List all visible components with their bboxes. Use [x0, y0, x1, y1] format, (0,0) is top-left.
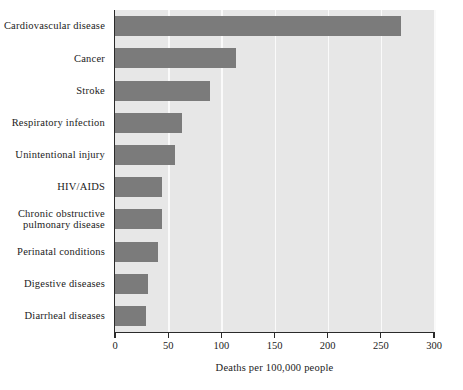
x-tick-label: 0: [112, 340, 117, 351]
category-label: Perinatal conditions: [0, 246, 105, 258]
x-axis-title: Deaths per 100,000 people: [115, 362, 434, 373]
x-tick-mark: [168, 333, 169, 338]
bar: [115, 242, 158, 262]
category-label: HIV/AIDS: [0, 181, 105, 193]
gridline: [328, 10, 330, 332]
category-label: Cardiovascular disease: [0, 20, 105, 32]
gridline: [275, 10, 277, 332]
plot-area: [115, 10, 434, 332]
x-tick-label: 50: [163, 340, 174, 351]
bar: [115, 145, 175, 165]
x-tick-label: 200: [320, 340, 336, 351]
x-tick-mark: [327, 333, 328, 338]
bar: [115, 209, 162, 229]
x-tick-label: 150: [267, 340, 283, 351]
category-label: Unintentional injury: [0, 149, 105, 161]
category-axis-labels: Cardiovascular diseaseCancerStrokeRespir…: [0, 10, 110, 332]
bar-chart: Cardiovascular diseaseCancerStrokeRespir…: [0, 0, 463, 390]
x-tick-label: 100: [213, 340, 229, 351]
gridline: [434, 10, 436, 332]
x-tick-mark: [380, 333, 381, 338]
x-tick-mark: [433, 333, 434, 338]
category-label: Chronic obstructive pulmonary disease: [0, 208, 105, 231]
category-label: Stroke: [0, 85, 105, 97]
gridline: [381, 10, 383, 332]
x-tick-mark: [114, 333, 115, 338]
category-label: Digestive diseases: [0, 278, 105, 290]
bar: [115, 306, 146, 326]
x-tick-mark: [221, 333, 222, 338]
category-label: Diarrheal diseases: [0, 310, 105, 322]
x-tick-label: 250: [373, 340, 389, 351]
x-tick-label: 300: [426, 340, 442, 351]
category-label: Cancer: [0, 53, 105, 65]
bar: [115, 113, 182, 133]
y-axis-line: [114, 10, 115, 332]
bar: [115, 16, 401, 36]
bar: [115, 48, 236, 68]
bar: [115, 81, 210, 101]
bar: [115, 177, 162, 197]
bar: [115, 274, 148, 294]
category-label: Respiratory infection: [0, 117, 105, 129]
x-tick-mark: [274, 333, 275, 338]
